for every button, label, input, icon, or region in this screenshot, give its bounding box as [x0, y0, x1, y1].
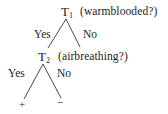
node-t2-label: T [38, 49, 46, 64]
node-t1-question: (warmblooded?) [80, 6, 157, 18]
node-t2: T2 [38, 50, 50, 65]
edge-t2-yes [24, 64, 43, 99]
leaf-positive: + [19, 99, 25, 110]
edge-t1-yes-label: Yes [34, 29, 51, 41]
node-t2-question: (airbreathing?) [58, 51, 128, 63]
node-t1-label: T [61, 4, 69, 19]
edge-t1-no-label: No [83, 29, 97, 41]
edge-t2-yes-label: Yes [8, 68, 25, 80]
node-t2-subscript: 2 [46, 56, 50, 65]
edge-t2-no-label: No [57, 68, 71, 80]
leaf-negative: − [57, 97, 63, 108]
node-t1-subscript: 1 [69, 11, 73, 20]
node-t1: T1 [61, 5, 73, 20]
edge-t1-no [66, 19, 80, 47]
